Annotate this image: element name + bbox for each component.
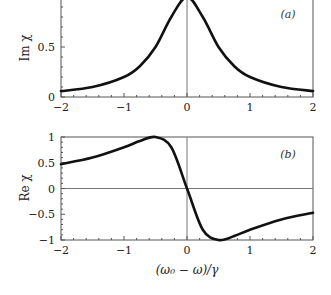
panel-b-xtick-neg2: −2 <box>53 244 69 257</box>
panel-a-y-ticks <box>61 7 65 97</box>
panel-a-x-ticks <box>61 93 313 97</box>
panel-b-xtick-0: 0 <box>184 244 191 257</box>
panel-b-y-ticks <box>61 137 65 240</box>
figure: 0.5 0 −2 −1 0 1 2 Im χ (a) 1 0.5 0 −0.5 … <box>0 0 331 295</box>
panel-a-xtick-2: 2 <box>310 101 317 114</box>
panel-b-xtick-1: 1 <box>247 244 254 257</box>
panel-b-xtick-neg1: −1 <box>116 244 132 257</box>
panel-a-xtick-neg2: −2 <box>53 101 69 114</box>
panel-b: 1 0.5 0 −0.5 −1 −2 −1 0 1 2 Re χ (ω₀ − ω… <box>18 131 317 277</box>
panel-a-xtick-neg1: −1 <box>116 101 132 114</box>
panel-b-x-axis-label: (ω₀ − ω)/γ <box>156 263 219 277</box>
panel-b-ytick-neg0.5: −0.5 <box>28 208 55 221</box>
panel-a-xtick-0: 0 <box>184 101 191 114</box>
panel-b-xtick-2: 2 <box>310 244 317 257</box>
panel-b-ytick-0: 0 <box>48 183 55 196</box>
panel-b-x-ticks <box>61 236 313 240</box>
panel-a-ytick-0.5: 0.5 <box>38 41 56 54</box>
panel-a-xtick-1: 1 <box>247 101 254 114</box>
panel-b-y-axis-label: Re χ <box>18 174 32 202</box>
panel-b-ytick-1: 1 <box>48 131 55 144</box>
panel-b-ytick-0.5: 0.5 <box>38 157 56 170</box>
panel-a: 0.5 0 −2 −1 0 1 2 Im χ (a) <box>18 0 317 114</box>
panel-b-label: (b) <box>280 148 296 161</box>
panel-a-label: (a) <box>280 8 295 21</box>
panel-a-y-axis-label: Im χ <box>18 34 32 62</box>
